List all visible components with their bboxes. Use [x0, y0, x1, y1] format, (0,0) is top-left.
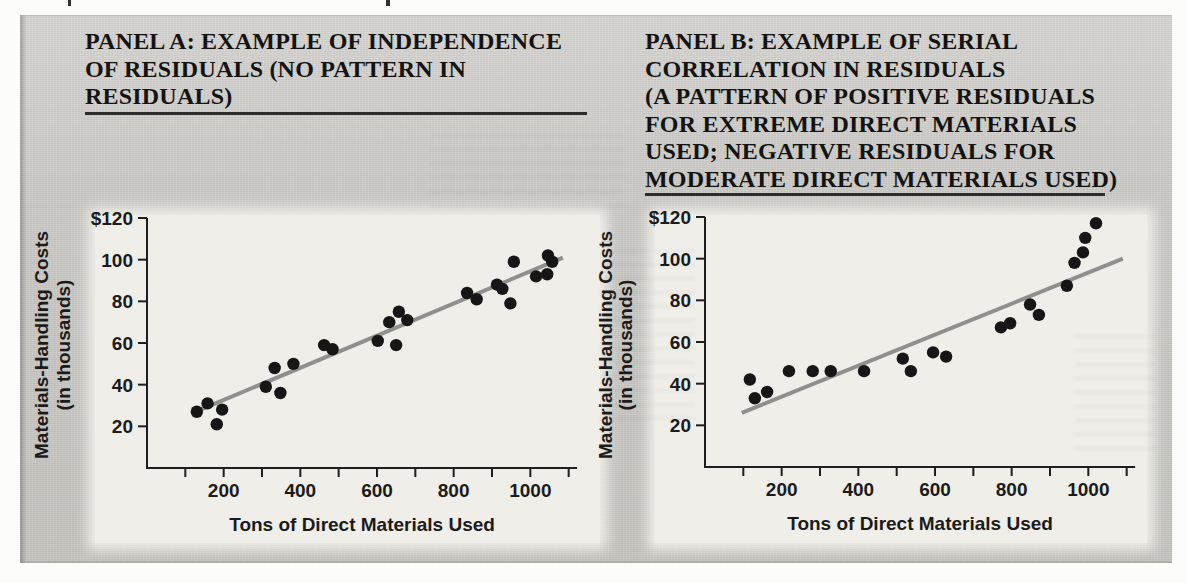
x-tick-label: 1000: [509, 480, 551, 501]
data-point: [541, 268, 553, 280]
data-point: [749, 392, 761, 404]
panel-b-title-line: PANEL B: EXAMPLE OF SERIAL: [645, 28, 1155, 56]
x-tick-label: 1000: [1067, 479, 1109, 500]
panel-b-title-line: (A PATTERN OF POSITIVE RESIDUALS: [645, 83, 1155, 111]
data-point: [744, 373, 756, 385]
data-point: [401, 314, 413, 326]
y-tick-label: 20: [112, 416, 133, 437]
y-tick-label: 60: [670, 332, 691, 353]
panel-b-title-line: USED; NEGATIVE RESIDUALS FOR: [645, 138, 1155, 166]
data-point: [783, 365, 795, 377]
x-tick-label: 200: [208, 480, 240, 501]
panel-a-title: PANEL A: EXAMPLE OF INDEPENDENCE OF RESI…: [85, 28, 600, 111]
data-point: [383, 316, 395, 328]
panel-b-title-line: CORRELATION IN RESIDUALS: [645, 56, 1155, 84]
scan-ghost-text: [430, 135, 625, 207]
panel-a-scatter-chart: 200400600800100020406080100$120Tons of D…: [30, 210, 600, 550]
panel-b-title-line: MODERATE DIRECT MATERIALS USED): [645, 166, 1155, 194]
x-tick-label: 200: [766, 479, 798, 500]
data-point: [1061, 280, 1073, 292]
scanned-textbook-figure-page: PANEL A: EXAMPLE OF INDEPENDENCE OF RESI…: [0, 0, 1187, 583]
y-axis-title-line: Materials-Handling Costs: [595, 231, 616, 459]
panel-a-title-underline: [85, 112, 587, 115]
data-point: [1024, 298, 1036, 310]
y-axis-title-line: (in thousands): [615, 280, 636, 411]
data-point: [211, 418, 223, 430]
data-point: [530, 270, 542, 282]
data-point: [268, 362, 280, 374]
data-point: [1090, 217, 1102, 229]
panel-b-title-underline: [645, 193, 1105, 196]
data-point: [1068, 257, 1080, 269]
x-tick-label: 600: [361, 480, 393, 501]
data-point: [201, 397, 213, 409]
data-point: [191, 406, 203, 418]
data-point: [216, 403, 228, 415]
data-point: [274, 387, 286, 399]
data-point: [508, 256, 520, 268]
y-tick-label: 40: [670, 374, 691, 395]
y-tick-label: 100: [101, 250, 133, 271]
data-point: [287, 358, 299, 370]
y-tick-label: $120: [649, 207, 691, 228]
x-tick-label: 400: [284, 480, 316, 501]
data-point: [807, 365, 819, 377]
y-tick-label: 100: [659, 249, 691, 270]
data-point: [825, 365, 837, 377]
regression-line: [201, 258, 563, 410]
data-point: [1004, 317, 1016, 329]
data-point: [390, 339, 402, 351]
y-tick-label: 40: [112, 375, 133, 396]
data-point: [372, 335, 384, 347]
panel-a-title-line: OF RESIDUALS (NO PATTERN IN: [85, 56, 600, 84]
y-tick-label: 60: [112, 333, 133, 354]
data-point: [858, 365, 870, 377]
data-point: [927, 346, 939, 358]
y-tick-label: 20: [670, 415, 691, 436]
y-axis-title-line: Materials-Handling Costs: [31, 231, 52, 459]
panel-a-title-line: RESIDUALS): [85, 83, 600, 111]
data-point: [504, 297, 516, 309]
y-tick-label: 80: [112, 291, 133, 312]
data-point: [897, 352, 909, 364]
panel-b-scatter-chart: 200400600800100020406080100$120Tons of D…: [588, 210, 1170, 550]
panel-b-title: PANEL B: EXAMPLE OF SERIAL CORRELATION I…: [645, 28, 1155, 193]
y-tick-label: $120: [91, 208, 133, 229]
y-axis-title-line: (in thousands): [53, 280, 74, 411]
x-tick-label: 600: [919, 479, 951, 500]
data-point: [496, 283, 508, 295]
panel-a-title-line: PANEL A: EXAMPLE OF INDEPENDENCE: [85, 28, 600, 56]
x-tick-label: 800: [996, 479, 1028, 500]
data-point: [546, 256, 558, 268]
data-point: [940, 350, 952, 362]
data-point: [260, 381, 272, 393]
y-tick-label: 80: [670, 290, 691, 311]
scan-artifact-mark: [68, 0, 71, 6]
x-axis-title: Tons of Direct Materials Used: [787, 513, 1053, 534]
data-point: [470, 293, 482, 305]
data-point: [1079, 232, 1091, 244]
data-point: [326, 343, 338, 355]
x-tick-label: 400: [842, 479, 874, 500]
x-tick-label: 800: [438, 480, 470, 501]
data-point: [761, 386, 773, 398]
x-axis-title: Tons of Direct Materials Used: [229, 514, 495, 535]
scan-artifact-mark: [386, 0, 390, 6]
data-point: [1033, 309, 1045, 321]
data-point: [905, 365, 917, 377]
data-point: [1077, 246, 1089, 258]
panel-b-title-line: FOR EXTREME DIRECT MATERIALS: [645, 111, 1155, 139]
